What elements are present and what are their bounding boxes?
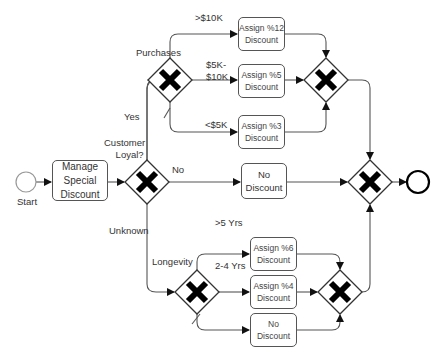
yes-branch-label: Yes [124,111,140,122]
start-label: Start [17,196,37,207]
longevity-merge-gateway-icon [318,270,362,314]
no-discount-task[interactable]: No Discount [241,163,287,199]
task-label-line3: Discount [61,188,100,202]
no-branch-label: No [172,164,184,175]
longevity-no-discount-task[interactable]: No Discount [250,313,297,347]
customer-loyal-gateway-icon [125,160,169,204]
longevity-gateway-icon [175,270,219,314]
assign-12-discount-task[interactable]: Assign %12 Discount [238,17,285,51]
customer-loyal-label: Customer Loyal? [104,137,145,161]
assign-4-discount-task[interactable]: Assign %4 Discount [250,275,297,309]
assign-6-discount-task[interactable]: Assign %6 Discount [250,237,297,271]
start-event-icon [16,172,36,192]
condition-over-10k: >$10K [195,12,223,23]
final-merge-gateway-icon [348,160,392,204]
condition-5k-10k: $5K- $10K [206,59,228,83]
task-label-line2: Special [64,174,97,188]
condition-under-5k: <$5K [205,119,227,130]
purchases-merge-gateway-icon [304,58,348,102]
task-label-line1: Manage [62,160,98,174]
unknown-branch-label: Unknown [109,225,149,236]
purchases-gateway-label: Purchases [136,47,181,58]
condition-over-5-yrs: >5 Yrs [215,217,243,228]
condition-2-4-yrs: 2-4 Yrs [215,260,245,271]
purchases-gateway-icon [148,58,192,102]
manage-special-discount-task[interactable]: Manage Special Discount [52,160,108,201]
assign-3-discount-task[interactable]: Assign %3 Discount [238,115,285,149]
end-event-icon [407,171,429,193]
assign-5-discount-task[interactable]: Assign %5 Discount [238,64,285,98]
longevity-gateway-label: Longevity [152,256,193,267]
